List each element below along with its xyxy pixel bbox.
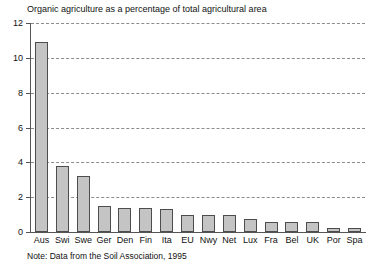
x-axis-line (30, 232, 366, 233)
y-tick-label: 4 (0, 158, 23, 167)
gridline (31, 162, 365, 163)
bar (56, 166, 69, 232)
bar (223, 215, 236, 232)
chart-title: Organic agriculture as a percentage of t… (27, 4, 267, 15)
y-tick-label: 2 (0, 193, 23, 202)
y-tick-label: 10 (0, 54, 23, 63)
bar (77, 176, 90, 232)
bar (306, 222, 319, 232)
y-tick-label: 8 (0, 89, 23, 98)
y-tick-mark (26, 232, 31, 233)
gridline (31, 93, 365, 94)
y-tick-label: 0 (0, 228, 23, 237)
chart-note: Note: Data from the Soil Association, 19… (27, 251, 187, 261)
gridline (31, 58, 365, 59)
bar (285, 222, 298, 232)
bar (118, 208, 131, 232)
bar (98, 206, 111, 232)
bar (244, 219, 257, 232)
bar (348, 228, 361, 232)
y-tick-label: 12 (0, 19, 23, 28)
y-tick-label: 6 (0, 124, 23, 133)
bar (265, 222, 278, 232)
bar (160, 209, 173, 233)
bar (181, 215, 194, 232)
x-tick-label: Spa (335, 235, 371, 245)
chart-figure: Organic agriculture as a percentage of t… (0, 0, 371, 272)
bar (202, 215, 215, 232)
gridline (31, 23, 365, 24)
bar (327, 228, 340, 232)
plot-area (31, 23, 365, 232)
bar (35, 42, 48, 232)
bar (139, 208, 152, 232)
gridline (31, 128, 365, 129)
